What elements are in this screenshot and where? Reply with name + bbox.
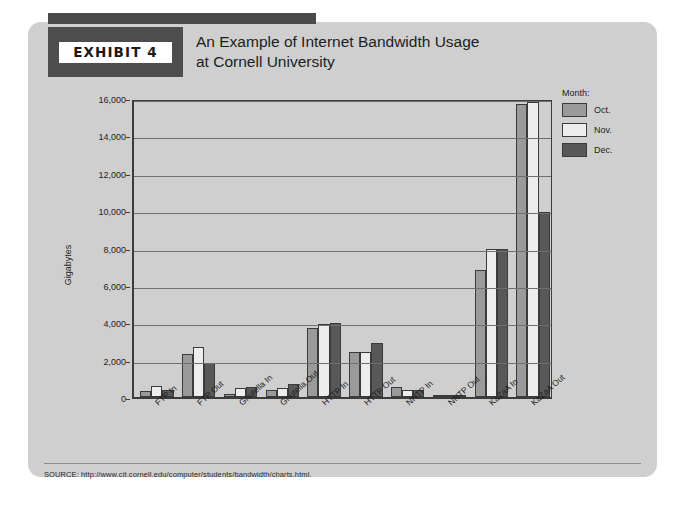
gridline: [134, 363, 551, 364]
y-tick-label: 6,000: [68, 282, 126, 292]
bar: [182, 354, 193, 397]
legend-item: Oct.: [562, 103, 662, 117]
bar-group: [307, 101, 341, 397]
bar-group: [140, 101, 174, 397]
bar: [193, 347, 204, 397]
y-tick-mark: [126, 175, 130, 176]
source-divider: [44, 463, 641, 464]
y-tick-mark: [126, 137, 130, 138]
bar: [140, 391, 151, 397]
source-text: SOURCE: http://www.cit.cornell.edu/compu…: [44, 470, 312, 479]
bar-group: [475, 101, 509, 397]
bar-group: [182, 101, 216, 397]
bar: [539, 212, 550, 397]
exhibit-banner-bar: [48, 13, 316, 24]
y-tick-mark: [126, 399, 130, 400]
x-axis-labels: FTP InFTP OutGnutella InGnutella OutHTTP…: [134, 400, 554, 470]
bar: [349, 352, 360, 397]
y-tick-mark: [126, 100, 130, 101]
gridline: [134, 288, 551, 289]
legend-item: Dec.: [562, 143, 662, 157]
bar: [360, 352, 371, 397]
y-tick-label: 16,000: [68, 95, 126, 105]
bar-chart: Gigabytes 02,0004,0006,0008,00010,00012,…: [28, 70, 628, 420]
bar: [266, 390, 277, 397]
exhibit-badge-label: EXHIBIT 4: [59, 42, 172, 63]
bar-group: [433, 101, 467, 397]
bar: [527, 102, 538, 397]
gridline: [134, 176, 551, 177]
gridline: [134, 138, 551, 139]
legend-swatch: [562, 143, 587, 157]
y-tick-mark: [126, 324, 130, 325]
bar-group: [516, 101, 550, 397]
bar-series-container: [136, 101, 551, 397]
gridline: [134, 251, 551, 252]
y-tick-mark: [126, 362, 130, 363]
y-tick-label: 14,000: [68, 132, 126, 142]
gridline: [134, 325, 551, 326]
legend: Month: Oct.Nov.Dec.: [562, 88, 662, 163]
legend-swatch: [562, 123, 587, 137]
bar: [391, 387, 402, 397]
bar: [497, 249, 508, 397]
y-tick-mark: [126, 212, 130, 213]
y-tick-label: 12,000: [68, 170, 126, 180]
legend-item: Nov.: [562, 123, 662, 137]
bar: [486, 249, 497, 397]
gridline: [134, 213, 551, 214]
y-tick-mark: [126, 250, 130, 251]
y-tick-label: 8,000: [68, 245, 126, 255]
bar-group: [349, 101, 383, 397]
y-tick-label: 2,000: [68, 357, 126, 367]
y-tick-label: 0: [68, 394, 126, 404]
page-title-line-2: at Cornell University: [196, 52, 596, 72]
bar: [433, 395, 444, 397]
y-tick-label: 4,000: [68, 319, 126, 329]
y-tick-mark: [126, 287, 130, 288]
legend-items: Oct.Nov.Dec.: [562, 103, 662, 157]
bar-group: [224, 101, 258, 397]
bar: [318, 324, 329, 397]
legend-label: Nov.: [594, 125, 612, 135]
y-tick-label: 10,000: [68, 207, 126, 217]
page-title: An Example of Internet Bandwidth Usage a…: [196, 32, 596, 72]
bar: [224, 394, 235, 397]
bar-group: [266, 101, 300, 397]
page-title-line-1: An Example of Internet Bandwidth Usage: [196, 32, 596, 52]
gridline: [134, 101, 551, 102]
legend-label: Oct.: [594, 105, 611, 115]
legend-swatch: [562, 103, 587, 117]
plot-area: [132, 100, 552, 399]
bar-group: [391, 101, 425, 397]
y-axis-ticks: 02,0004,0006,0008,00010,00012,00014,0001…: [64, 100, 126, 399]
legend-label: Dec.: [594, 145, 613, 155]
legend-title: Month:: [562, 88, 662, 98]
exhibit-page: EXHIBIT 4 An Example of Internet Bandwid…: [0, 0, 679, 508]
